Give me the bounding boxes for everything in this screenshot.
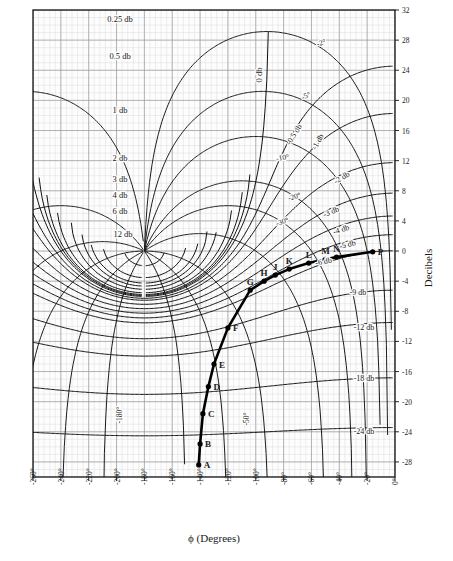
m-label-neg-8: -12 db xyxy=(354,323,375,332)
data-point-C xyxy=(200,411,205,416)
data-point-label-M: M xyxy=(321,246,330,256)
y-tick-label-6: 8 xyxy=(402,187,406,196)
m-label-pos-7: 12 db xyxy=(113,229,132,239)
n-label-5: -50° xyxy=(242,413,251,426)
y-tick-label-14: -24 xyxy=(402,428,412,437)
x-tick-label-9: -80° xyxy=(280,472,289,485)
data-point-label-B: B xyxy=(205,439,211,449)
y-tick-label-15: -28 xyxy=(402,458,412,467)
x-tick-label-10: -60° xyxy=(307,472,316,485)
data-point-label-D: D xyxy=(213,382,220,392)
data-point-label-J: J xyxy=(273,262,278,272)
y-tick-label-10: -8 xyxy=(402,307,408,316)
data-point-label-E: E xyxy=(219,360,225,370)
y-tick-label-5: 12 xyxy=(402,157,410,166)
x-tick-label-0: -260° xyxy=(29,468,38,485)
x-tick-label-6: -140° xyxy=(196,468,205,485)
m-label-pos-2: 1 db xyxy=(113,105,128,115)
data-point-F xyxy=(225,325,230,330)
x-tick-label-12: -20° xyxy=(363,472,372,485)
x-tick-label-13: 0° xyxy=(391,478,400,485)
data-point-B xyxy=(198,441,203,446)
data-point-L xyxy=(306,261,311,266)
data-point-label-H: H xyxy=(261,268,268,278)
m-label-neg-7: -9 db xyxy=(350,288,367,297)
y-tick-label-2: 24 xyxy=(402,66,410,75)
y-tick-label-7: 4 xyxy=(402,217,406,226)
y-tick-label-4: 16 xyxy=(402,127,410,136)
y-tick-label-12: -16 xyxy=(402,368,412,377)
data-point-label-L: L xyxy=(306,250,312,260)
m-label-pos-6: 6 db xyxy=(113,206,128,216)
x-tick-label-7: -120° xyxy=(224,468,233,485)
data-point-P xyxy=(370,249,375,254)
data-point-G xyxy=(248,288,253,293)
n-label-2: -10° xyxy=(276,152,290,163)
data-point-D xyxy=(206,384,211,389)
y-tick-label-3: 20 xyxy=(402,96,410,105)
x-tick-label-8: -100° xyxy=(252,468,261,485)
data-point-label-P: P xyxy=(378,247,384,257)
x-tick-label-1: -240° xyxy=(57,468,66,485)
nichols-chart-figure: ABCDEFGHJKLMNP 0.25 db0.5 db1 db2 db3 db… xyxy=(0,0,453,561)
m-label-pos-0: 0.25 db xyxy=(107,14,133,24)
x-tick-label-5: -160° xyxy=(168,468,177,485)
y-tick-label-0: 32 xyxy=(402,6,410,15)
data-point-A xyxy=(196,462,201,467)
x-axis-title: ϕ (Degrees) xyxy=(188,532,240,545)
data-point-label-G: G xyxy=(247,277,254,287)
x-tick-label-2: -220° xyxy=(85,468,94,485)
y-tick-label-13: -20 xyxy=(402,398,412,407)
n-label-6: -180° xyxy=(115,407,124,424)
m-label-neg-9: -18 db xyxy=(354,374,375,383)
x-tick-label-4: -180° xyxy=(140,468,149,485)
data-point-label-C: C xyxy=(208,409,215,419)
data-point-label-K: K xyxy=(286,256,293,266)
data-point-N xyxy=(334,255,339,260)
y-tick-label-8: 0 xyxy=(402,247,406,256)
y-axis-title: Decibels xyxy=(422,249,434,287)
y-tick-label-1: 28 xyxy=(402,36,410,45)
data-point-E xyxy=(211,361,216,366)
m-label-zero-0: 0 db xyxy=(254,68,264,83)
chart-canvas: ABCDEFGHJKLMNP 0.25 db0.5 db1 db2 db3 db… xyxy=(0,0,453,561)
data-point-label-F: F xyxy=(233,323,239,333)
m-label-pos-4: 3 db xyxy=(113,174,128,184)
data-point-J xyxy=(273,273,278,278)
data-point-K xyxy=(287,267,292,272)
data-point-H xyxy=(262,279,267,284)
m-label-pos-3: 2 db xyxy=(113,153,128,163)
x-tick-label-3: -200° xyxy=(113,468,122,485)
y-tick-label-11: -12 xyxy=(402,337,412,346)
m-label-pos-1: 0.5 db xyxy=(109,51,130,61)
y-tick-label-9: -4 xyxy=(402,277,408,286)
x-tick-label-11: -40° xyxy=(335,472,344,485)
m-label-pos-5: 4 db xyxy=(113,190,128,200)
m-label-neg-10: -24 db xyxy=(354,427,375,436)
